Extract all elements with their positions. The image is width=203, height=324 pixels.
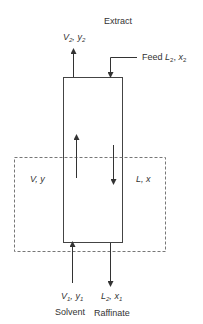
extraction-column-diagram [0, 0, 203, 324]
feed-label: Feed L2, x2 [142, 53, 186, 62]
feed-in-arrow [111, 58, 138, 76]
bottom-left-stream-label: V1, y1 [61, 292, 83, 301]
solvent-label: Solvent [55, 308, 85, 317]
inner-right-label: L, x [136, 175, 151, 184]
inner-left-label: V, y [30, 175, 45, 184]
top-stream-label: V2, y2 [63, 33, 85, 42]
bottom-right-stream-label: L2, x1 [101, 292, 122, 301]
control-volume-dashed-box [15, 158, 166, 252]
raffinate-label: Raffinate [94, 309, 130, 318]
extract-label: Extract [104, 17, 132, 26]
